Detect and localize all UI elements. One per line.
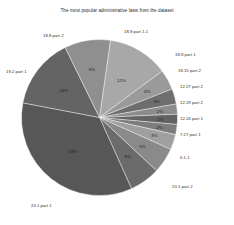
category-label: 18.8 part 1.1 (124, 29, 148, 34)
category-label: 20.1 part 1 (31, 203, 52, 208)
slice-percent-label: 2% (156, 125, 162, 130)
slice-percent-label: 4% (144, 89, 150, 94)
category-label: 18.8 part 2 (43, 33, 64, 38)
slice-percent-label: 12% (117, 78, 126, 83)
slice-percent-label: 3% (153, 99, 159, 104)
category-label: 6.1.1 (180, 155, 190, 160)
slice-percent-label: 5% (139, 144, 145, 149)
category-label: 19.2 part 1 (6, 69, 27, 74)
slice-percent-label: 3% (151, 133, 157, 138)
category-label: 12.29 part 2 (180, 100, 203, 105)
category-label: 7.27 part 1 (180, 132, 201, 137)
category-label: 12.27 part 2 (180, 84, 203, 89)
category-label: 12.24 part 1 (180, 116, 203, 121)
category-label: 20.1 part 2 (172, 184, 193, 189)
pie-slices (21, 40, 177, 196)
slice-percent-label: 2% (157, 109, 163, 114)
pie-chart-canvas: 12%4%3%2%2%2%3%5%6%33%14%9% (0, 0, 234, 225)
slice-percent-label: 2% (157, 117, 163, 122)
category-label: 18.8 part 1 (175, 52, 196, 57)
pie-chart-figure: The most popular administrative laws fro… (0, 0, 234, 225)
slice-percent-label: 9% (89, 67, 95, 72)
category-label: 18.15 part 2 (178, 68, 201, 73)
slice-percent-label: 6% (124, 154, 130, 159)
slice-percent-label: 14% (59, 88, 68, 93)
slice-percent-label: 33% (69, 149, 78, 154)
